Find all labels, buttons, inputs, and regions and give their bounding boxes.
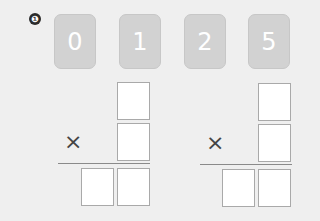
number-card-1[interactable]: 1 [119,14,161,69]
answer-box-result-ones[interactable] [117,168,150,206]
answer-box-top[interactable] [258,83,291,121]
number-card-2[interactable]: 2 [184,14,226,69]
answer-box-middle[interactable] [258,124,291,162]
answer-box-result-tens[interactable] [81,168,114,206]
multiply-sign: × [64,131,82,153]
problem-number-badge: ❶ [29,13,41,25]
answer-box-result-ones[interactable] [258,169,291,207]
multiply-sign: × [206,132,224,154]
answer-box-top[interactable] [117,82,150,120]
number-card-3[interactable]: 5 [248,14,290,69]
result-line [58,163,150,164]
answer-box-middle[interactable] [117,123,150,161]
answer-box-result-tens[interactable] [222,169,255,207]
number-card-0[interactable]: 0 [54,14,96,69]
result-line [200,164,292,165]
